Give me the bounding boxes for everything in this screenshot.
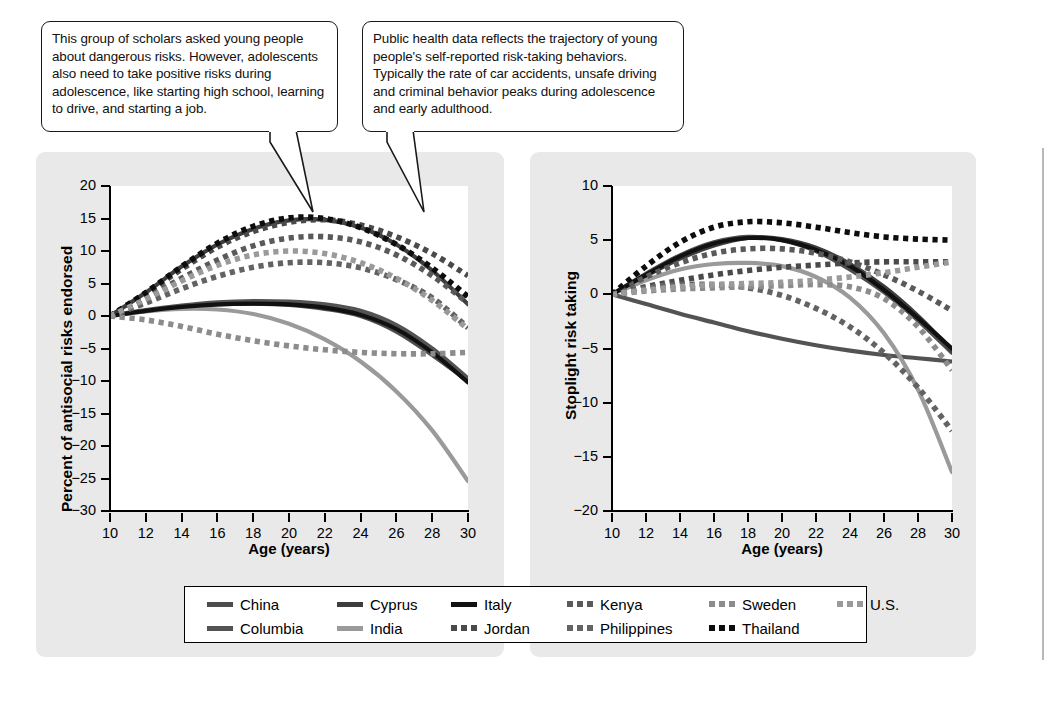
y-tick-label: 15 [46,211,96,226]
x-tick [883,513,885,522]
callout-right-text: Public health data reflects the trajecto… [363,22,683,125]
curves-right [612,186,952,511]
legend-swatch-dotted [451,625,477,631]
legend-swatch-solid [451,602,477,607]
x-tick-label: 30 [448,526,488,541]
series-line-philippines [110,262,468,328]
x-tick-label: 28 [412,526,452,541]
figure-two-panel-risk-taking: 20151050−5−10−15−20−25−30 10121416182022… [0,0,1052,707]
x-tick [109,513,111,522]
x-tick [360,513,362,522]
y-tick [603,456,612,458]
x-tick [815,513,817,522]
y-tick [101,348,110,350]
legend-label: U.S. [870,597,899,612]
legend-item-india[interactable]: India [337,616,403,640]
x-tick-label: 22 [305,526,345,541]
y-tick-label: 10 [548,178,598,193]
x-tick-label: 14 [162,526,202,541]
y-tick [603,185,612,187]
legend-label: India [370,621,403,636]
legend-item-italy[interactable]: Italy [451,592,512,616]
callout-right-tail [382,128,452,218]
x-tick-label: 30 [932,526,972,541]
y-tick [101,185,110,187]
callout-left-tail [265,128,335,218]
y-tick [101,413,110,415]
legend-swatch-dotted [567,601,593,607]
legend-item-cyprus[interactable]: Cyprus [337,592,418,616]
legend-swatch-solid [207,602,233,607]
x-tick-label: 26 [376,526,416,541]
x-axis-left [109,510,469,512]
legend-item-philippines[interactable]: Philippines [567,616,673,640]
x-tick [951,513,953,522]
x-tick [431,513,433,522]
legend-label: Cyprus [370,597,418,612]
x-tick [849,513,851,522]
y-tick [603,348,612,350]
callout-left: This group of scholars asked young peopl… [41,21,338,132]
legend-label: China [240,597,279,612]
y-tick [101,283,110,285]
page-margin-rule [1042,148,1044,660]
y-tick [101,380,110,382]
legend-item-thailand[interactable]: Thailand [709,616,800,640]
legend-item-jordan[interactable]: Jordan [451,616,530,640]
legend-item-columbia[interactable]: Columbia [207,616,303,640]
x-tick [611,513,613,522]
x-tick-label: 20 [269,526,309,541]
y-axis-title-left: Percent of antisocial risks endorsed [58,246,76,512]
y-tick-label: −20 [548,503,598,518]
chart-legend: ChinaCyprusItalyKenyaSwedenU.S.ColumbiaI… [184,586,867,643]
y-tick [101,315,110,317]
x-axis-title-right: Age (years) [611,541,953,556]
y-tick [603,510,612,512]
legend-item-sweden[interactable]: Sweden [709,592,796,616]
x-tick [679,513,681,522]
y-tick [603,402,612,404]
x-axis-title-left: Age (years) [109,541,469,556]
legend-swatch-dotted [567,625,593,631]
legend-label: Philippines [600,621,673,636]
legend-label: Columbia [240,621,303,636]
x-tick [917,513,919,522]
legend-label: Thailand [742,621,800,636]
legend-label: Sweden [742,597,796,612]
x-tick [324,513,326,522]
x-tick [181,513,183,522]
callout-right: Public health data reflects the trajecto… [362,21,684,132]
x-tick-label: 24 [341,526,381,541]
y-tick [603,293,612,295]
legend-swatch-solid [337,626,363,631]
y-tick-label: −15 [548,449,598,464]
x-tick-label: 18 [233,526,273,541]
y-tick-label: 20 [46,178,96,193]
legend-item-kenya[interactable]: Kenya [567,592,643,616]
y-tick-label: 5 [548,232,598,247]
x-axis-right [611,510,953,512]
legend-label: Jordan [484,621,530,636]
x-tick-label: 16 [197,526,237,541]
x-tick [288,513,290,522]
y-tick [101,510,110,512]
y-tick [603,239,612,241]
series-line-china [110,304,468,381]
x-tick [145,513,147,522]
legend-swatch-dotted [837,601,863,607]
legend-label: Italy [484,597,512,612]
x-tick [713,513,715,522]
y-tick [101,445,110,447]
legend-swatch-dotted [709,601,735,607]
x-tick [781,513,783,522]
legend-item-us[interactable]: U.S. [837,592,899,616]
x-tick-label: 10 [90,526,130,541]
x-tick [252,513,254,522]
x-tick [747,513,749,522]
legend-item-china[interactable]: China [207,592,279,616]
curves-left [110,186,468,511]
y-tick [101,250,110,252]
y-tick [101,218,110,220]
x-tick-label: 12 [126,526,166,541]
x-tick [467,513,469,522]
